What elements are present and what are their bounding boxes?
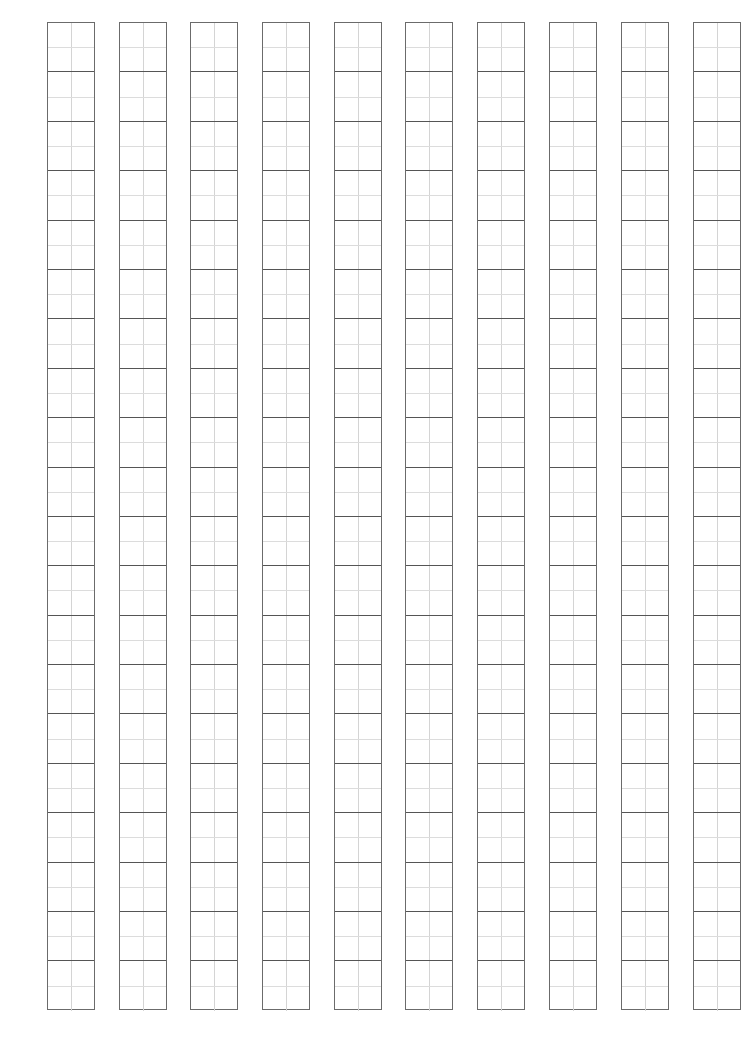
grid-cell bbox=[622, 23, 668, 72]
grid-cell bbox=[550, 369, 596, 418]
grid-cell bbox=[406, 72, 452, 121]
horizontal-guide-line bbox=[550, 986, 596, 987]
grid-cell bbox=[478, 813, 524, 862]
horizontal-guide-line bbox=[120, 590, 166, 591]
horizontal-guide-line bbox=[120, 245, 166, 246]
grid-cell bbox=[335, 221, 381, 270]
grid-cell bbox=[406, 319, 452, 368]
horizontal-guide-line bbox=[406, 97, 452, 98]
horizontal-guide-line bbox=[263, 97, 309, 98]
horizontal-guide-line bbox=[694, 788, 740, 789]
horizontal-guide-line bbox=[191, 245, 237, 246]
horizontal-guide-line bbox=[335, 442, 381, 443]
horizontal-guide-line bbox=[263, 640, 309, 641]
grid-cell bbox=[335, 912, 381, 961]
grid-cell bbox=[191, 418, 237, 467]
grid-cell bbox=[694, 72, 740, 121]
horizontal-guide-line bbox=[406, 837, 452, 838]
horizontal-guide-line bbox=[406, 146, 452, 147]
grid-cell bbox=[48, 863, 94, 912]
grid-cell bbox=[622, 517, 668, 566]
horizontal-guide-line bbox=[478, 245, 524, 246]
horizontal-guide-line bbox=[550, 195, 596, 196]
horizontal-guide-line bbox=[48, 936, 94, 937]
horizontal-guide-line bbox=[406, 442, 452, 443]
horizontal-guide-line bbox=[263, 837, 309, 838]
grid-cell bbox=[263, 468, 309, 517]
horizontal-guide-line bbox=[694, 146, 740, 147]
grid-cell bbox=[694, 961, 740, 1010]
horizontal-guide-line bbox=[622, 541, 668, 542]
grid-cell bbox=[478, 714, 524, 763]
grid-cell bbox=[191, 764, 237, 813]
horizontal-guide-line bbox=[406, 393, 452, 394]
horizontal-guide-line bbox=[550, 739, 596, 740]
grid-cell bbox=[478, 122, 524, 171]
grid-cell bbox=[191, 221, 237, 270]
horizontal-guide-line bbox=[120, 739, 166, 740]
grid-cell bbox=[406, 714, 452, 763]
horizontal-guide-line bbox=[191, 837, 237, 838]
grid-cell bbox=[478, 517, 524, 566]
horizontal-guide-line bbox=[550, 97, 596, 98]
horizontal-guide-line bbox=[335, 97, 381, 98]
grid-cell bbox=[263, 270, 309, 319]
grid-cell bbox=[335, 23, 381, 72]
grid-cell bbox=[335, 72, 381, 121]
horizontal-guide-line bbox=[550, 788, 596, 789]
grid-cell bbox=[335, 566, 381, 615]
grid-cell bbox=[478, 616, 524, 665]
horizontal-guide-line bbox=[48, 837, 94, 838]
grid-cell bbox=[478, 369, 524, 418]
horizontal-guide-line bbox=[478, 541, 524, 542]
grid-cell bbox=[191, 72, 237, 121]
horizontal-guide-line bbox=[191, 590, 237, 591]
grid-cell bbox=[120, 468, 166, 517]
practice-sheet bbox=[0, 0, 741, 1055]
horizontal-guide-line bbox=[694, 47, 740, 48]
horizontal-guide-line bbox=[120, 788, 166, 789]
horizontal-guide-line bbox=[191, 294, 237, 295]
grid-cell bbox=[335, 665, 381, 714]
horizontal-guide-line bbox=[406, 887, 452, 888]
grid-cell bbox=[478, 665, 524, 714]
grid-cell bbox=[120, 764, 166, 813]
grid-cell bbox=[622, 764, 668, 813]
horizontal-guide-line bbox=[48, 689, 94, 690]
horizontal-guide-line bbox=[478, 590, 524, 591]
grid-cell bbox=[335, 418, 381, 467]
horizontal-guide-line bbox=[335, 294, 381, 295]
grid-cell bbox=[694, 714, 740, 763]
grid-cell bbox=[263, 665, 309, 714]
horizontal-guide-line bbox=[694, 442, 740, 443]
horizontal-guide-line bbox=[478, 97, 524, 98]
grid-cell bbox=[48, 221, 94, 270]
horizontal-guide-line bbox=[694, 936, 740, 937]
horizontal-guide-line bbox=[622, 739, 668, 740]
grid-cell bbox=[478, 23, 524, 72]
grid-cell bbox=[478, 418, 524, 467]
grid-cell bbox=[406, 912, 452, 961]
grid-cell bbox=[120, 23, 166, 72]
grid-cell bbox=[406, 418, 452, 467]
grid-cell bbox=[694, 665, 740, 714]
grid-cell bbox=[191, 23, 237, 72]
grid-cell bbox=[120, 665, 166, 714]
grid-cell bbox=[120, 319, 166, 368]
horizontal-guide-line bbox=[263, 689, 309, 690]
grid-cell bbox=[120, 171, 166, 220]
grid-column bbox=[190, 22, 238, 1010]
horizontal-guide-line bbox=[48, 97, 94, 98]
horizontal-guide-line bbox=[335, 936, 381, 937]
horizontal-guide-line bbox=[550, 47, 596, 48]
grid-cell bbox=[48, 418, 94, 467]
grid-cell bbox=[120, 270, 166, 319]
horizontal-guide-line bbox=[406, 739, 452, 740]
grid-cell bbox=[406, 468, 452, 517]
grid-cell bbox=[120, 912, 166, 961]
grid-cell bbox=[191, 863, 237, 912]
horizontal-guide-line bbox=[48, 294, 94, 295]
grid-cell bbox=[694, 23, 740, 72]
horizontal-guide-line bbox=[478, 837, 524, 838]
grid-column bbox=[621, 22, 669, 1010]
